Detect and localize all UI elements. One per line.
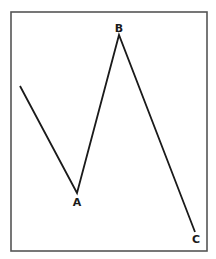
- point-label-c: C: [192, 233, 200, 246]
- wave-line: [20, 35, 195, 232]
- diagram-frame: [11, 12, 207, 251]
- wave-diagram: A B C: [0, 0, 216, 259]
- point-label-b: B: [115, 22, 123, 35]
- point-label-a: A: [73, 196, 82, 209]
